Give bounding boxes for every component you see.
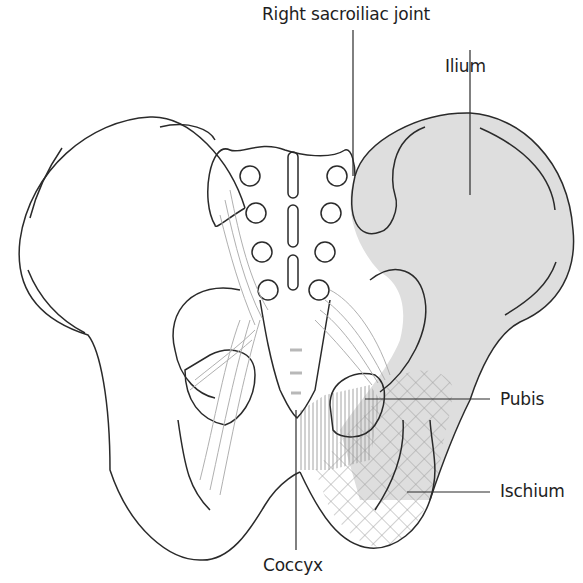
sacral-foramina [240,152,347,300]
pelvis-diagram: Right sacroiliac joint Ilium Pubis Ischi… [0,0,583,583]
coccyx-segments [290,350,302,393]
label-ilium: Ilium [445,56,486,76]
label-ischium: Ischium [500,481,565,501]
label-pubis: Pubis [500,389,544,409]
label-coccyx: Coccyx [263,555,323,575]
label-right-sacroiliac-joint: Right sacroiliac joint [262,4,430,24]
pelvis-drawing [0,0,583,583]
